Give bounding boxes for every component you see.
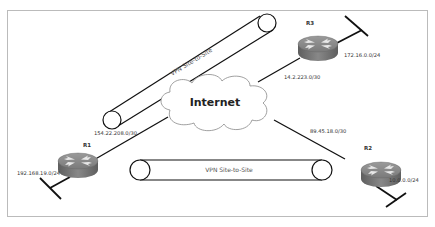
- router-r2: [361, 162, 401, 187]
- network-diagram: VPN Site-to-Site VPN Site-to-Site Intern…: [0, 0, 435, 227]
- router-icon: [298, 36, 338, 61]
- r2-wan-subnet: 89.45.18.0/30: [310, 128, 346, 134]
- router-icon: [361, 162, 401, 187]
- r3-lan-subnet: 172.16.0.0/24: [344, 52, 381, 58]
- router-r3: [298, 36, 338, 61]
- tunnel-label-bottom: VPN Site-to-Site: [205, 166, 253, 173]
- internet-label: Internet: [190, 96, 241, 109]
- router-r1-label: R1: [83, 142, 91, 148]
- r3-wan-subnet: 14.2.223.0/30: [284, 74, 320, 80]
- router-r3-label: R3: [306, 20, 314, 26]
- r1-lan-subnet: 192.168.19.0/24: [17, 170, 61, 176]
- r1-wan-subnet: 154.22.208.0/30: [94, 130, 137, 136]
- r2-lan-subnet: 10.0.0.0/24: [389, 177, 419, 183]
- router-r2-label: R2: [364, 145, 372, 151]
- router-icon: [58, 153, 98, 178]
- router-r1: [58, 153, 98, 178]
